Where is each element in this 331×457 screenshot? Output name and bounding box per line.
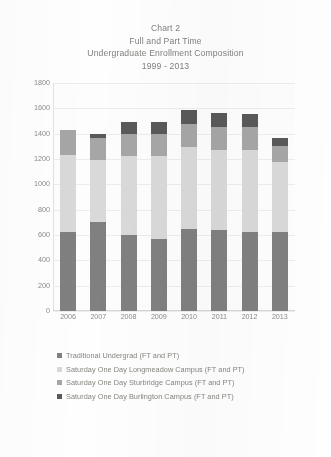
x-axis-tick-label: 2006 <box>51 313 85 321</box>
chart-legend: Traditional Undergrad (FT and PT)Saturda… <box>57 349 307 403</box>
legend-swatch-icon <box>57 367 62 372</box>
legend-item-label: Saturday One Day Burlington Campus (FT a… <box>66 392 234 401</box>
bar-segment[interactable] <box>242 232 258 311</box>
legend-swatch-icon <box>57 380 62 385</box>
legend-item[interactable]: Saturday One Day Longmeadow Campus (FT a… <box>57 363 307 377</box>
y-axis-tick-label: 1600 <box>18 105 50 112</box>
bar-segment[interactable] <box>272 138 288 146</box>
x-axis-tick-label: 2010 <box>172 313 206 321</box>
chart-title-line-3: Undergraduate Enrollment Composition <box>0 47 331 60</box>
bar-segment[interactable] <box>121 235 137 311</box>
bar-group[interactable] <box>151 122 167 311</box>
bar-group[interactable] <box>242 114 258 311</box>
y-axis-tick-label: 1800 <box>18 79 50 86</box>
legend-item[interactable]: Traditional Undergrad (FT and PT) <box>57 349 307 363</box>
bar-segment[interactable] <box>211 113 227 127</box>
bar-segment[interactable] <box>90 138 106 160</box>
bar-segment[interactable] <box>90 160 106 222</box>
chart-title-line-4: 1999 - 2013 <box>0 60 331 73</box>
bar-segment[interactable] <box>151 134 167 156</box>
y-axis-labels: 180016001400120010008006004002000 <box>18 83 50 311</box>
bars-layer <box>53 83 295 311</box>
y-axis-tick-label: 1400 <box>18 130 50 137</box>
chart-title-line-2: Full and Part Time <box>0 35 331 48</box>
x-axis-labels: 20062007200820092010201120122013 <box>53 313 295 325</box>
x-axis-tick-label: 2007 <box>81 313 115 321</box>
chart-page: Chart 2 Full and Part Time Undergraduate… <box>0 0 331 457</box>
bar-group[interactable] <box>121 122 137 311</box>
x-axis-tick-label: 2012 <box>233 313 267 321</box>
x-axis-tick-label: 2013 <box>263 313 297 321</box>
plot-area <box>53 83 295 311</box>
bar-segment[interactable] <box>60 232 76 311</box>
legend-item[interactable]: Saturday One Day Burlington Campus (FT a… <box>57 390 307 404</box>
bar-segment[interactable] <box>60 155 76 232</box>
x-axis-tick-label: 2011 <box>202 313 236 321</box>
y-axis-tick-label: 600 <box>18 231 50 238</box>
bar-segment[interactable] <box>60 130 76 155</box>
x-axis-tick-label: 2009 <box>142 313 176 321</box>
bar-group[interactable] <box>60 130 76 311</box>
bar-segment[interactable] <box>272 146 288 161</box>
x-axis-tick-label: 2008 <box>112 313 146 321</box>
bar-segment[interactable] <box>90 222 106 311</box>
y-axis-tick-label: 400 <box>18 257 50 264</box>
bar-segment[interactable] <box>151 239 167 311</box>
bar-segment[interactable] <box>181 110 197 125</box>
bar-segment[interactable] <box>121 122 137 133</box>
bar-group[interactable] <box>90 134 106 311</box>
bar-segment[interactable] <box>151 156 167 240</box>
bar-segment[interactable] <box>181 229 197 311</box>
legend-item-label: Traditional Undergrad (FT and PT) <box>66 351 179 360</box>
y-axis-tick-label: 800 <box>18 206 50 213</box>
bar-segment[interactable] <box>211 150 227 230</box>
y-axis-tick-label: 0 <box>18 307 50 314</box>
bar-segment[interactable] <box>272 162 288 232</box>
legend-swatch-icon <box>57 394 62 399</box>
y-axis-tick-label: 1200 <box>18 155 50 162</box>
bar-segment[interactable] <box>272 232 288 311</box>
bar-segment[interactable] <box>181 124 197 147</box>
legend-swatch-icon <box>57 353 62 358</box>
gridline <box>53 311 295 312</box>
bar-segment[interactable] <box>181 147 197 229</box>
bar-segment[interactable] <box>211 230 227 311</box>
bar-segment[interactable] <box>211 127 227 150</box>
bar-segment[interactable] <box>151 122 167 134</box>
y-axis-tick-label: 200 <box>18 282 50 289</box>
legend-item-label: Saturday One Day Sturbridge Campus (FT a… <box>66 378 234 387</box>
bar-segment[interactable] <box>242 114 258 127</box>
bar-group[interactable] <box>181 110 197 311</box>
bar-group[interactable] <box>272 138 288 311</box>
legend-item-label: Saturday One Day Longmeadow Campus (FT a… <box>66 365 245 374</box>
bar-group[interactable] <box>211 113 227 311</box>
legend-item[interactable]: Saturday One Day Sturbridge Campus (FT a… <box>57 376 307 390</box>
y-axis-tick-label: 1000 <box>18 181 50 188</box>
bar-segment[interactable] <box>121 134 137 157</box>
bar-segment[interactable] <box>242 127 258 150</box>
bar-segment[interactable] <box>242 150 258 232</box>
bar-segment[interactable] <box>121 156 137 235</box>
chart-title-line-1: Chart 2 <box>0 22 331 35</box>
chart-title-block: Chart 2 Full and Part Time Undergraduate… <box>0 22 331 72</box>
